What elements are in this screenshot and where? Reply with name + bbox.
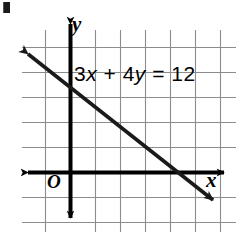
origin-label: O: [47, 172, 61, 191]
graph-figure: y x O 3x + 4y = 12: [0, 0, 238, 235]
equation-equals: =: [146, 62, 171, 85]
equation-annotation: 3x + 4y = 12: [74, 63, 196, 84]
equation-var-y: y: [135, 62, 146, 85]
y-axis-label: y: [72, 14, 81, 35]
equation-coef-y: 4: [123, 62, 135, 85]
x-axis-label: x: [206, 170, 217, 191]
coordinate-plane-svg: [0, 0, 238, 235]
equation-coef-x: 3: [74, 62, 86, 85]
equation-constant: 12: [171, 62, 195, 85]
equation-var-x: x: [86, 62, 97, 85]
equation-plus: +: [97, 62, 122, 85]
